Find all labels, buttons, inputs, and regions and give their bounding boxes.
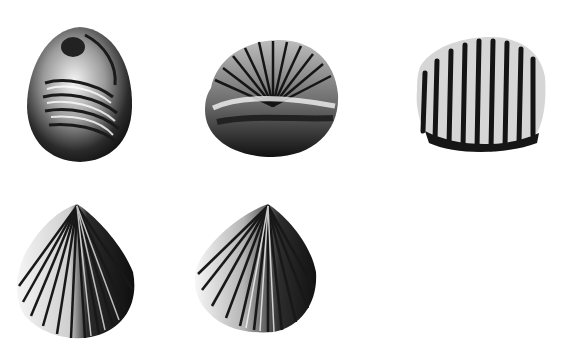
- shell-2-illustration: [203, 38, 340, 158]
- shell-1-illustration: [25, 25, 135, 163]
- shell-5-illustration: [190, 202, 318, 333]
- shell-4-illustration: [13, 202, 137, 340]
- shell-3-illustration: [415, 35, 547, 153]
- specimen-plate: [0, 0, 561, 357]
